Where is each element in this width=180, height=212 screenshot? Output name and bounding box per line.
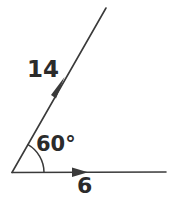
angle-diagram-figure: 14 60° 6 [0,0,180,212]
diagonal-ray-label: 14 [27,58,59,81]
horizontal-ray-label: 6 [77,175,92,197]
angle-measure-label: 60° [36,134,76,155]
